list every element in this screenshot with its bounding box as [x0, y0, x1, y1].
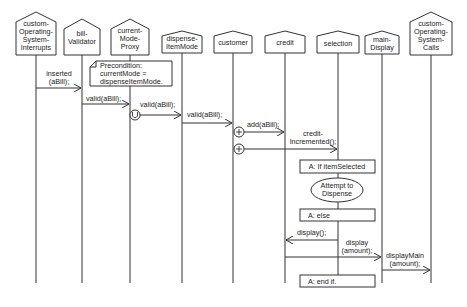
svg-text:Validator: Validator: [68, 37, 96, 46]
fragment-else: A: else: [300, 209, 375, 221]
svg-text:valid(aBill);: valid(aBill);: [86, 94, 121, 103]
lifeline-head-bill-validator: bill- Validator: [64, 19, 100, 55]
message-valid-3: valid(aBill);: [182, 110, 232, 123]
lifeline-head-custom-os-calls: custom- Operating- System- Calls: [410, 12, 452, 55]
svg-text:selection: selection: [324, 39, 352, 48]
svg-text:display();: display();: [297, 228, 326, 237]
message-display-main: displayMain (amount);: [382, 251, 430, 270]
svg-text:(amount);: (amount);: [390, 259, 421, 268]
message-display: display();: [286, 228, 338, 240]
svg-text:Calls: Calls: [423, 43, 439, 52]
svg-text:customer: customer: [218, 38, 248, 47]
message-valid-1: valid(aBill);: [82, 94, 129, 104]
lifeline-head-dispense-item-mode: dispense- ItemMode: [162, 31, 202, 53]
attempt-to-dispense-state: Attempt to Dispense: [311, 178, 363, 202]
message-valid-2: valid(aBill);: [130, 100, 181, 120]
svg-text:A: end if.: A: end if.: [308, 277, 336, 286]
message-display-amount: display (amount);: [285, 238, 381, 257]
svg-text:(amount);: (amount);: [342, 246, 373, 255]
fragment-if-item-selected: A: If itemSelected: [300, 160, 375, 173]
svg-text:(aBill);: (aBill);: [49, 77, 69, 86]
lifeline-head-custom-os-interrupts: custom- Operating- System- Interrupts: [16, 12, 56, 55]
svg-text:credit: credit: [276, 38, 294, 47]
svg-text:Interrupts: Interrupts: [21, 43, 52, 52]
lifeline-head-customer: customer: [214, 31, 252, 53]
svg-text:valid(aBill);: valid(aBill);: [140, 100, 175, 109]
svg-text:A: If itemSelected: A: If itemSelected: [309, 162, 365, 171]
svg-text:add(aBill);: add(aBill);: [247, 120, 279, 129]
svg-text:valid(aBill);: valid(aBill);: [187, 110, 222, 119]
lifeline-head-credit: credit: [265, 31, 305, 53]
svg-text:Dispense: Dispense: [322, 189, 352, 198]
message-inserted: inserted (aBill);: [36, 69, 81, 88]
svg-text:Incremented();: Incremented();: [290, 137, 337, 146]
lifeline-head-current-mode-proxy: current- Mode- Proxy: [111, 19, 149, 55]
svg-text:dispenseItemMode.: dispenseItemMode.: [100, 77, 163, 86]
lifeline-head-main-display: main- Display: [365, 31, 399, 54]
sequence-diagram: custom- Operating- System- Interrupts bi…: [0, 0, 467, 307]
svg-text:A: else: A: else: [308, 211, 330, 220]
u-marker-icon: [130, 110, 140, 120]
message-add: add(aBill);: [234, 120, 284, 137]
fragment-end-if: A: end if.: [300, 275, 375, 287]
lifeline-head-selection: selection: [317, 31, 359, 53]
svg-text:Display: Display: [370, 43, 394, 52]
svg-text:ItemMode: ItemMode: [166, 42, 198, 51]
precondition-note: Precondition: currentMode = dispenseItem…: [90, 61, 172, 86]
svg-text:Proxy: Proxy: [121, 42, 140, 51]
